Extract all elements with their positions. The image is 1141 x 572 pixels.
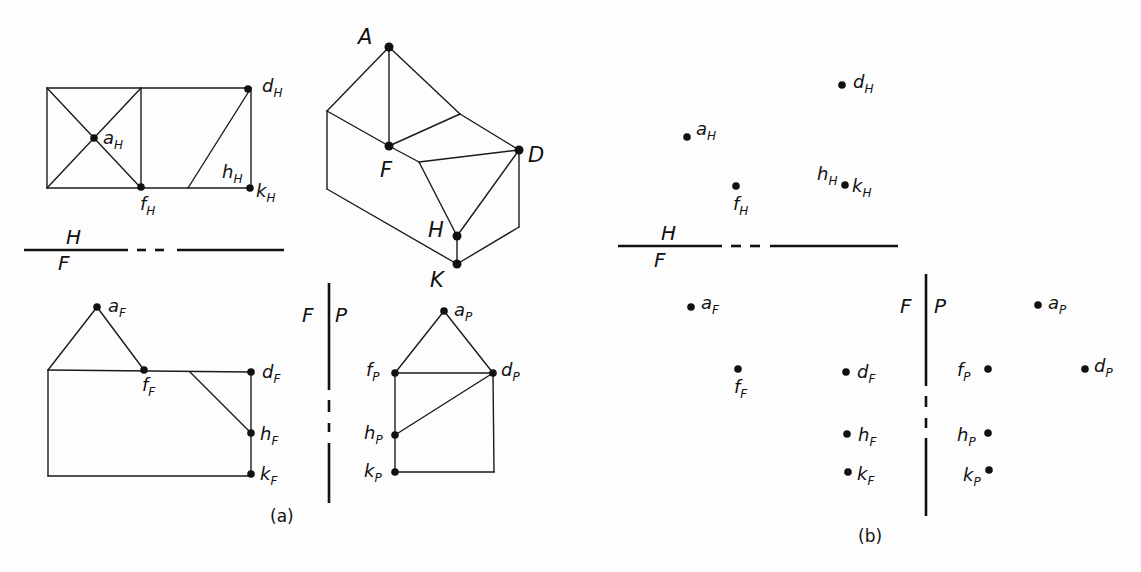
edge-line — [493, 373, 494, 472]
point-label: kF — [857, 463, 875, 488]
panel-caption: (a) — [270, 506, 294, 526]
panel-captions: (a)(b) — [270, 506, 882, 546]
point-marker — [844, 468, 852, 476]
point-marker — [841, 181, 849, 189]
point-label: hF — [858, 424, 877, 449]
plane-label: H — [661, 221, 676, 245]
point-marker — [247, 470, 255, 478]
point-label: fH — [140, 193, 155, 218]
point-marker — [453, 260, 462, 269]
point-marker — [985, 466, 993, 474]
point-marker — [515, 146, 524, 155]
point-label: fP — [957, 359, 971, 384]
point-label: dP — [501, 359, 520, 384]
point-label: F — [380, 158, 393, 182]
point-marker — [246, 184, 254, 192]
plane-label: F — [58, 251, 70, 275]
point-marker — [247, 429, 255, 437]
point-label: dH — [853, 71, 873, 96]
point-label: aP — [1048, 292, 1067, 317]
point-label: kP — [364, 460, 382, 485]
point-label: kH — [852, 175, 871, 200]
point-marker — [391, 431, 399, 439]
top-view-h: aHdHfHkHhH — [47, 75, 282, 218]
panel-caption: (b) — [858, 526, 882, 546]
point-label: kH — [256, 180, 275, 205]
point-label: hP — [957, 424, 976, 449]
point-label: hH — [222, 161, 242, 186]
plane-label: F — [900, 294, 912, 318]
point-marker — [440, 307, 448, 315]
edge-line — [457, 227, 519, 264]
point-label: aF — [108, 295, 127, 320]
point-marker — [244, 85, 252, 93]
point-marker — [687, 303, 695, 311]
edge-line — [190, 372, 251, 433]
point-marker — [385, 142, 394, 151]
edge-line — [389, 114, 460, 146]
plane-label: P — [335, 303, 348, 327]
point-marker — [984, 429, 992, 437]
edge-line — [457, 150, 519, 236]
fold-line-h-f: HF — [24, 225, 284, 275]
point-marker — [734, 365, 742, 373]
panel-b: HF FP dHaHfHhHkHaFfFdFhFkFaPfPdPhPkP — [618, 71, 1113, 516]
point-marker — [140, 366, 148, 374]
point-marker — [842, 368, 850, 376]
pictorial-view: AFDHK — [327, 25, 544, 292]
plane-label: F — [302, 303, 314, 327]
point-label: dP — [1094, 355, 1113, 380]
point-marker — [683, 133, 691, 141]
edge-line — [419, 150, 519, 162]
point-label: fP — [366, 359, 380, 384]
point-label: fF — [142, 374, 156, 399]
point-marker — [1034, 301, 1042, 309]
point-marker — [391, 369, 399, 377]
drawing-canvas: aHdHfHkHhH HF aFfFdFhFkF FP aPfPdPhPkP A… — [0, 0, 1141, 572]
orthographic-projection-figure: aHdHfHkHhH HF aFfFdFhFkF FP aPfPdPhPkP A… — [0, 0, 1141, 572]
point-label: aF — [701, 292, 720, 317]
edge-line — [327, 111, 389, 146]
point-label: A — [356, 25, 372, 49]
point-label: hP — [364, 422, 383, 447]
point-label: kF — [260, 463, 278, 488]
point-marker — [843, 430, 851, 438]
point-marker — [984, 365, 992, 373]
point-marker — [838, 81, 846, 89]
plane-label: P — [934, 294, 947, 318]
point-label: fF — [734, 376, 748, 401]
edge-line — [48, 307, 97, 370]
point-label: aP — [454, 299, 473, 324]
fold-line-f-p: FP — [900, 274, 947, 516]
point-label: K — [430, 268, 446, 292]
point-label: kP — [963, 464, 981, 489]
point-label: H — [428, 218, 444, 242]
edge-line — [460, 114, 519, 150]
point-label: aH — [696, 118, 716, 143]
plane-label: F — [654, 248, 666, 272]
point-label: dF — [857, 361, 876, 386]
edge-line — [48, 370, 251, 372]
point-marker — [1081, 365, 1089, 373]
profile-view-p: aPfPdPhPkP — [364, 299, 520, 485]
point-projections: dHaHfHhHkHaFfFdFhFkFaPfPdPhPkP — [683, 71, 1113, 489]
edge-line — [327, 47, 389, 111]
fold-line-f-p: FP — [302, 283, 348, 503]
point-marker — [137, 183, 145, 191]
point-marker — [93, 303, 101, 311]
point-marker — [90, 134, 98, 142]
point-marker — [732, 182, 740, 190]
edge-line — [395, 311, 444, 373]
point-marker — [489, 369, 497, 377]
point-label: fH — [733, 193, 748, 218]
point-label: D — [528, 143, 544, 167]
point-label: dF — [262, 361, 281, 386]
plane-label: H — [66, 225, 81, 249]
edge-line — [389, 146, 419, 162]
point-marker — [391, 468, 399, 476]
point-marker — [453, 232, 462, 241]
front-view-f: aFfFdFhFkF — [48, 295, 281, 488]
edge-line — [395, 373, 493, 435]
point-marker — [385, 43, 394, 52]
point-label: dH — [262, 75, 282, 100]
